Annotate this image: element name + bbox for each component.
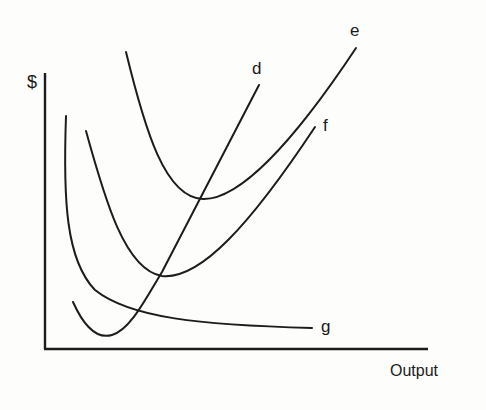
diagram-canvas — [0, 0, 486, 410]
x-axis-label: Output — [390, 363, 438, 379]
curve-d — [73, 85, 259, 336]
curve-g-label: g — [321, 318, 330, 335]
y-axis-label: $ — [27, 73, 37, 91]
curve-f — [86, 127, 315, 276]
curve-e-label: e — [350, 22, 359, 39]
cost-curves-diagram: $ Output d e f g — [0, 0, 486, 410]
curve-f-label: f — [323, 117, 328, 134]
curve-d-label: d — [252, 60, 261, 77]
curve-e — [126, 48, 356, 199]
